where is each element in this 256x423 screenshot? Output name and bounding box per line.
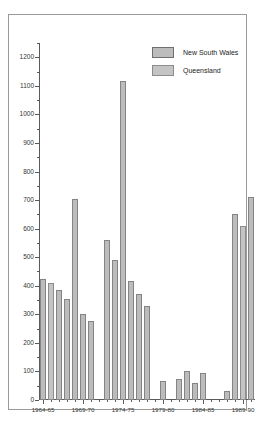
- y-axis-tick-minor: [37, 214, 39, 215]
- x-axis-tick-minor: [115, 400, 116, 402]
- x-axis-tick-minor: [251, 400, 252, 402]
- chart-legend: New South Wales Queensland: [152, 45, 252, 81]
- bar: [176, 379, 182, 400]
- bar: [48, 283, 54, 400]
- y-axis-tick-minor: [37, 271, 39, 272]
- y-axis-tick-major: [35, 57, 39, 58]
- bar: [88, 321, 94, 400]
- bar: [184, 371, 190, 400]
- bar: [56, 290, 62, 400]
- y-axis-tick-label: 100: [23, 368, 34, 375]
- bar: [144, 306, 150, 400]
- x-axis-tick-minor: [187, 400, 188, 402]
- y-axis-tick-label: 200: [23, 340, 34, 347]
- bar: [160, 381, 166, 400]
- chart-frame: 0100200300400500600700800900100011001200…: [8, 14, 247, 410]
- x-axis-tick-major: [163, 400, 164, 404]
- y-axis-tick-label: 1000: [20, 111, 34, 118]
- legend-label-queensland: Queensland: [183, 67, 221, 74]
- x-axis-tick-minor: [235, 400, 236, 402]
- y-axis-tick-major: [35, 143, 39, 144]
- y-axis-tick-label: 900: [23, 140, 34, 147]
- bar: [64, 299, 70, 400]
- y-axis-tick-major: [35, 86, 39, 87]
- chart-figure: 0100200300400500600700800900100011001200…: [0, 0, 256, 423]
- legend-swatch-icon-queensland: [152, 65, 174, 76]
- y-axis-tick-major: [35, 286, 39, 287]
- y-axis-tick-label: 500: [23, 254, 34, 261]
- y-axis-tick-major: [35, 114, 39, 115]
- x-axis-tick-minor: [171, 400, 172, 402]
- x-axis-tick-label: 1984-85: [192, 407, 215, 413]
- y-axis-tick-label: 700: [23, 197, 34, 204]
- y-axis-tick-minor: [37, 43, 39, 44]
- bar: [104, 240, 110, 400]
- x-axis-tick-minor: [227, 400, 228, 402]
- y-axis-tick-major: [35, 229, 39, 230]
- bar: [72, 199, 78, 400]
- bar: [128, 281, 134, 400]
- y-axis-tick-major: [35, 172, 39, 173]
- x-axis-tick-minor: [155, 400, 156, 402]
- legend-item-queensland: Queensland: [152, 63, 252, 77]
- x-axis-tick-minor: [67, 400, 68, 402]
- plot-area: 0100200300400500600700800900100011001200…: [39, 43, 255, 400]
- x-axis-tick-minor: [51, 400, 52, 402]
- x-axis-tick-minor: [59, 400, 60, 402]
- y-axis-tick-major: [35, 314, 39, 315]
- y-axis-tick-minor: [37, 357, 39, 358]
- y-axis-tick-label: 1200: [20, 54, 34, 61]
- legend-item-new-south-wales: New South Wales: [152, 45, 252, 59]
- x-axis-tick-minor: [211, 400, 212, 402]
- x-axis-tick-minor: [107, 400, 108, 402]
- bar: [136, 294, 142, 400]
- y-axis-tick-major: [35, 257, 39, 258]
- legend-label-new-south-wales: New South Wales: [183, 49, 238, 56]
- x-axis-tick-minor: [219, 400, 220, 402]
- bar: [120, 81, 126, 400]
- x-axis-tick-major: [123, 400, 124, 404]
- x-axis-tick-minor: [147, 400, 148, 402]
- x-axis-tick-label: 1969-70: [72, 407, 95, 413]
- bar: [240, 226, 246, 400]
- x-axis-tick-minor: [139, 400, 140, 402]
- bar: [40, 279, 46, 400]
- y-axis-tick-label: 0: [30, 397, 34, 404]
- y-axis-tick-minor: [37, 243, 39, 244]
- x-axis-tick-minor: [99, 400, 100, 402]
- bar: [200, 373, 206, 400]
- bar: [232, 214, 238, 400]
- y-axis-tick-label: 300: [23, 311, 34, 318]
- y-axis-tick-label: 400: [23, 283, 34, 290]
- y-axis-tick-minor: [37, 329, 39, 330]
- y-axis-tick-minor: [37, 386, 39, 387]
- legend-swatch-icon-new-south-wales: [152, 47, 174, 58]
- y-axis-tick-label: 1100: [20, 83, 34, 90]
- bar: [248, 197, 254, 400]
- x-axis-tick-label: 1964-65: [32, 407, 55, 413]
- x-axis-tick-label: 1989-90: [232, 407, 255, 413]
- x-axis-tick-major: [43, 400, 44, 404]
- y-axis-tick-label: 600: [23, 225, 34, 232]
- y-axis-tick-major: [35, 371, 39, 372]
- y-axis-tick-minor: [37, 157, 39, 158]
- bar: [192, 383, 198, 400]
- y-axis-tick-minor: [37, 129, 39, 130]
- x-axis-tick-major: [83, 400, 84, 404]
- x-axis-tick-minor: [91, 400, 92, 402]
- x-axis-tick-label: 1974-75: [112, 407, 135, 413]
- bar: [224, 391, 230, 400]
- x-axis-tick-major: [243, 400, 244, 404]
- y-axis-tick-major: [35, 343, 39, 344]
- y-axis-tick-minor: [37, 100, 39, 101]
- x-axis-tick-minor: [195, 400, 196, 402]
- x-axis-tick-minor: [131, 400, 132, 402]
- x-axis-tick-minor: [75, 400, 76, 402]
- y-axis-tick-label: 800: [23, 168, 34, 175]
- bar: [80, 314, 86, 400]
- y-axis-tick-minor: [37, 300, 39, 301]
- x-axis-tick-label: 1979-80: [152, 407, 175, 413]
- bar: [112, 260, 118, 400]
- y-axis-tick-major: [35, 200, 39, 201]
- x-axis-tick-minor: [179, 400, 180, 402]
